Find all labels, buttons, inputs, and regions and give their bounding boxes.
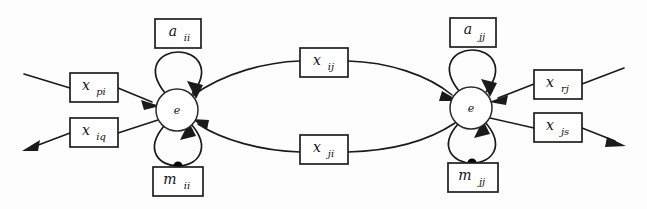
box-m-jj[interactable]: m jj (448, 163, 498, 192)
arrowhead-out-left (22, 140, 40, 151)
node-j-label: e (468, 102, 475, 115)
box-x-rj-subscript: rj (561, 83, 569, 94)
edge-x-pi-to-node-i (118, 88, 160, 110)
edge-x-ij-to-node-j (348, 61, 459, 101)
box-x-iq[interactable]: x iq (70, 118, 118, 147)
box-x-js[interactable]: x js (534, 113, 582, 142)
box-x-ij[interactable]: x ij (300, 48, 348, 77)
node-i[interactable]: e (156, 89, 198, 131)
box-x-js-subscript: js (559, 126, 569, 137)
edge-node-j-to-x-ji (348, 123, 455, 152)
edge-x-ji-to-node-i (192, 119, 300, 152)
arrowhead-out-right (605, 137, 626, 147)
box-x-pi-rect[interactable] (70, 73, 118, 102)
box-m-ii-subscript: ii (184, 180, 190, 191)
box-x-rj-label: x (546, 74, 554, 90)
box-x-ij-subscript: ij (328, 61, 334, 72)
node-i-label: e (174, 104, 181, 117)
box-x-ji-rect[interactable] (300, 135, 348, 164)
box-x-pi-label: x (82, 77, 90, 93)
edge-x-iq-external-out (22, 133, 70, 151)
box-x-ij-rect[interactable] (300, 48, 348, 77)
edge-external-in-right (582, 68, 624, 84)
box-m-ii-rect[interactable] (153, 167, 203, 196)
box-a-jj-rect[interactable] (450, 18, 496, 47)
edge-external-in-left (24, 74, 70, 88)
box-x-ji-subscript: ji (326, 148, 334, 159)
box-a-ii[interactable]: a ii (155, 19, 201, 48)
box-x-js-rect[interactable] (534, 113, 582, 142)
box-x-ij-label: x (313, 52, 321, 68)
edge-node-i-to-x-iq (118, 120, 158, 133)
box-x-pi-subscript: pi (96, 86, 106, 97)
box-x-pi[interactable]: x pi (70, 73, 118, 102)
box-x-ji[interactable]: x ji (300, 135, 348, 164)
box-m-jj-label: m (458, 167, 471, 183)
box-m-jj-rect[interactable] (448, 163, 498, 192)
edge-node-i-to-x-ij (192, 61, 300, 96)
diagram-canvas: e e a ii m ii a jj m jj x (0, 0, 647, 209)
box-x-iq-rect[interactable] (70, 118, 118, 147)
signal-flow-graph: e e a ii m ii a jj m jj x (0, 0, 647, 209)
box-a-ii-subscript: ii (184, 32, 190, 43)
edge-node-j-to-x-js (490, 118, 534, 128)
box-x-js-label: x (546, 117, 554, 133)
edge-x-js-external-out (582, 128, 626, 147)
box-m-ii-label: m (163, 171, 176, 187)
box-x-ji-label: x (313, 139, 321, 155)
box-x-iq-subscript: iq (96, 131, 106, 142)
box-x-iq-label: x (82, 122, 90, 138)
box-x-rj-rect[interactable] (534, 70, 582, 99)
box-a-jj-subscript: jj (477, 31, 485, 42)
box-a-ii-label: a (169, 23, 177, 39)
box-a-jj-label: a (464, 21, 472, 37)
box-a-ii-rect[interactable] (155, 19, 201, 48)
node-j[interactable]: e (450, 87, 492, 129)
box-x-rj[interactable]: x rj (534, 70, 582, 99)
box-m-jj-subscript: jj (477, 176, 485, 187)
box-a-jj[interactable]: a jj (450, 18, 496, 47)
edge-x-rj-to-node-j (489, 84, 534, 105)
box-m-ii[interactable]: m ii (153, 167, 203, 196)
